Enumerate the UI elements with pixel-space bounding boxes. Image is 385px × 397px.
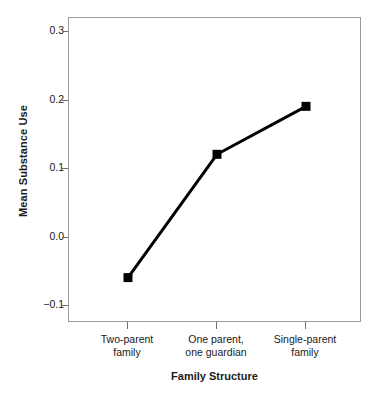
data-point-marker bbox=[213, 150, 222, 159]
y-axis-tick-label: 0.2 bbox=[18, 93, 64, 105]
y-axis-tick-mark bbox=[62, 31, 68, 32]
y-axis-tick-mark bbox=[62, 305, 68, 306]
x-axis-category-label-line: family bbox=[251, 346, 359, 359]
data-series-layer bbox=[69, 18, 362, 323]
y-axis-tick-labels: 0.30.20.10.0−0.1 bbox=[12, 0, 64, 397]
x-axis-title: Family Structure bbox=[68, 370, 361, 382]
x-axis-category-label-line: Two-parent bbox=[101, 333, 154, 345]
chart-figure: Mean Substance Use 0.30.20.10.0−0.1 Two-… bbox=[0, 0, 385, 397]
x-axis-category-label-line: Single-parent bbox=[274, 333, 336, 345]
y-axis-tick-label: 0.1 bbox=[18, 161, 64, 173]
y-axis-tick-mark bbox=[62, 237, 68, 238]
data-point-marker bbox=[302, 102, 311, 111]
x-axis-tick-mark bbox=[216, 322, 217, 329]
plot-area bbox=[68, 17, 361, 322]
x-axis-category-label-line: One parent, bbox=[188, 333, 243, 345]
x-axis-category-labels: Two-parentfamilyOne parent,one guardianS… bbox=[68, 333, 361, 367]
x-axis-tick-mark bbox=[305, 322, 306, 329]
y-axis-tick-mark bbox=[62, 100, 68, 101]
series-markers bbox=[124, 102, 311, 282]
y-axis-tick-label: 0.0 bbox=[18, 230, 64, 242]
x-axis-category-label: Single-parentfamily bbox=[251, 333, 359, 359]
x-axis-tick-marks bbox=[68, 322, 361, 332]
x-axis-tick-mark bbox=[127, 322, 128, 329]
y-axis-tick-label: 0.3 bbox=[18, 24, 64, 36]
y-axis-tick-label: −0.1 bbox=[18, 298, 64, 310]
data-point-marker bbox=[124, 273, 133, 282]
series-line bbox=[128, 106, 306, 277]
y-axis-tick-mark bbox=[62, 168, 68, 169]
